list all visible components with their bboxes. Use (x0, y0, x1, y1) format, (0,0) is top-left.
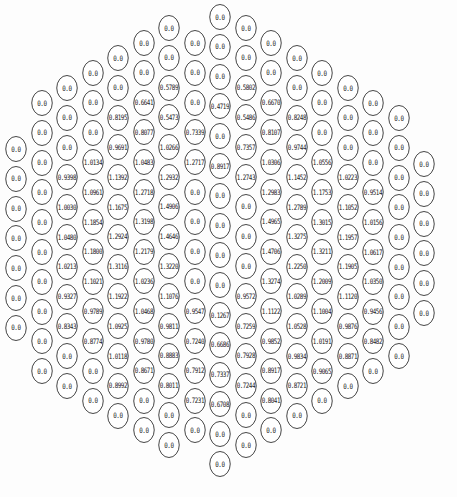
cell-value: 1.0925 (109, 322, 127, 331)
fuel-cell: 0.0 (235, 402, 256, 428)
cell-value: 1.3198 (134, 217, 152, 226)
cell-value: 0.0 (394, 352, 403, 361)
fuel-cell: 0.0 (82, 60, 103, 86)
cell-value: 0.8917 (262, 366, 280, 375)
cell-value: 0.9398 (58, 173, 76, 182)
cell-value: 1.0266 (160, 143, 178, 152)
cell-value: 0.0 (37, 218, 46, 227)
fuel-cell: 0.0 (209, 451, 230, 477)
fuel-cell: 0.0 (5, 166, 26, 192)
fuel-cell: 1.1122 (260, 298, 281, 324)
fuel-cell: 0.9456 (362, 299, 383, 325)
fuel-cell: 1.3274 (260, 268, 281, 294)
cell-value: 0.7912 (185, 366, 203, 375)
fuel-cell: 0.9065 (311, 358, 332, 384)
fuel-cell: 1.1800 (82, 239, 103, 265)
cell-value: 0.0 (419, 309, 428, 318)
fuel-cell: 1.1392 (107, 164, 128, 190)
cell-value: 0.0 (419, 249, 428, 258)
cell-value: 1.0191 (313, 337, 331, 346)
cell-value: 0.8917 (211, 162, 229, 171)
fuel-cell: 0.0 (31, 209, 52, 235)
cell-value: 0.0 (241, 53, 250, 62)
cell-value: 0.0 (241, 441, 250, 450)
cell-value: 0.9834 (287, 352, 305, 361)
cell-value: 1.4646 (160, 232, 178, 241)
fuel-cell: 0.0 (209, 4, 230, 30)
cell-value: 0.0 (215, 13, 224, 22)
fuel-cell: 0.7912 (184, 358, 205, 384)
cell-value: 1.1076 (160, 292, 178, 301)
fuel-cell: 0.7339 (184, 119, 205, 145)
fuel-cell: 0.7231 (184, 388, 205, 414)
fuel-cell: 0.0 (311, 60, 332, 86)
fuel-cell: 0.0 (388, 105, 409, 131)
fuel-cell: 0.9852 (260, 328, 281, 354)
fuel-cell: 0.0 (413, 151, 434, 177)
cell-value: 1.0617 (364, 248, 382, 257)
cell-value: 0.8248 (287, 113, 305, 122)
fuel-cell: 0.8721 (286, 373, 307, 399)
cell-value: 1.1122 (262, 307, 280, 316)
fuel-cell: 0.0 (184, 179, 205, 205)
cell-value: 0.0 (164, 53, 173, 62)
cell-value: 1.4706 (262, 247, 280, 256)
fuel-cell: 0.0 (31, 179, 52, 205)
fuel-cell: 1.1004 (311, 298, 332, 324)
fuel-cell: 1.1854 (82, 209, 103, 235)
cell-value: 1.0289 (287, 292, 305, 301)
fuel-cell: 0.9514 (362, 179, 383, 205)
fuel-cell: 0.0 (209, 34, 230, 60)
fuel-cell: 0.0 (184, 268, 205, 294)
fuel-cell: 0.0 (31, 269, 52, 295)
fuel-cell: 0.6708 (209, 391, 230, 417)
cell-value: 0.0 (317, 128, 326, 137)
fuel-cell: 0.0 (133, 417, 154, 443)
cell-value: 1.0468 (134, 307, 152, 316)
fuel-cell: 0.8343 (56, 313, 77, 339)
cell-value: 0.0 (37, 367, 46, 376)
cell-value: 1.3211 (313, 247, 331, 256)
fuel-cell: 0.0 (5, 225, 26, 251)
fuel-cell: 0.0 (184, 30, 205, 56)
fuel-cell: 0.0 (31, 358, 52, 384)
fuel-cell: 0.0 (209, 421, 230, 447)
cell-value: 0.0 (113, 54, 122, 63)
fuel-cell: 1.0306 (260, 149, 281, 175)
cell-value: 1.1021 (83, 277, 101, 286)
fuel-cell: 0.0 (209, 242, 230, 268)
cell-value: 1.4906 (160, 202, 178, 211)
fuel-cell: 1.3275 (286, 224, 307, 250)
cell-value: 1.1392 (109, 173, 127, 182)
cell-value: 0.8992 (109, 381, 127, 390)
cell-value: 0.8011 (160, 381, 178, 390)
cell-value: 0.0 (88, 396, 97, 405)
cell-value: 1.0118 (109, 352, 127, 361)
cell-value: 0.5789 (160, 83, 178, 92)
fuel-cell: 1.0191 (311, 328, 332, 354)
fuel-cell: 1.0223 (337, 164, 358, 190)
cell-value: 0.0 (139, 426, 148, 435)
fuel-cell: 0.0 (311, 388, 332, 414)
fuel-cell: 0.0 (337, 75, 358, 101)
cell-value: 0.0 (164, 441, 173, 450)
fuel-cell: 0.9834 (286, 343, 307, 369)
fuel-cell: 0.1267 (209, 302, 230, 328)
fuel-cell: 0.0 (82, 120, 103, 146)
fuel-cell: 0.0 (158, 402, 179, 428)
cell-value: 1.0480 (58, 233, 76, 242)
fuel-cell: 1.4906 (158, 194, 179, 220)
fuel-cell: 0.0 (388, 135, 409, 161)
fuel-cell: 0.0 (235, 432, 256, 458)
cell-value: 0.0 (62, 84, 71, 93)
fuel-cell: 0.8195 (107, 105, 128, 131)
fuel-cell: 0.0 (286, 75, 307, 101)
fuel-cell: 0.0 (209, 123, 230, 149)
fuel-cell: 1.2983 (260, 179, 281, 205)
cell-value: 1.2009 (313, 277, 331, 286)
fuel-cell: 0.0 (413, 211, 434, 237)
cell-value: 1.1854 (83, 218, 101, 227)
cell-value: 0.0 (190, 68, 199, 77)
cell-value: 1.2983 (262, 188, 280, 197)
cell-value: 0.0 (292, 83, 301, 92)
